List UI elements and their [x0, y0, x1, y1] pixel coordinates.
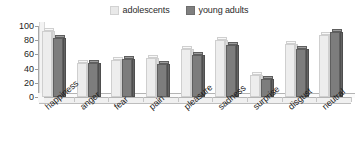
x-axis-labels: happinessangerfearpainpleasuresadnesssur…: [0, 100, 358, 150]
bar-side-face: [132, 59, 135, 97]
bar-pain-young-adults: [157, 64, 167, 97]
bar-top-face: [297, 46, 307, 49]
y-tick-mark: [35, 26, 38, 27]
plot-area: [39, 26, 351, 97]
bar-face: [181, 49, 191, 97]
bar-face: [111, 60, 121, 97]
bar-face: [285, 44, 295, 97]
legend-label-young-adults: young adults: [199, 5, 249, 15]
bar-face: [42, 31, 52, 97]
category-separator: [74, 97, 75, 102]
bar-sadness-adolescents: [215, 40, 225, 97]
y-tick-label: 40: [24, 65, 34, 74]
bar-group: [143, 26, 178, 97]
bar-top-face: [124, 56, 134, 59]
bar-group: [316, 26, 351, 97]
bar-face: [250, 75, 260, 97]
bar-top-face: [286, 41, 296, 44]
y-tick-label: 60: [24, 50, 34, 59]
category-separator: [178, 97, 179, 102]
bar-group: [282, 26, 317, 97]
category-separator: [282, 97, 283, 102]
category-separator: [143, 97, 144, 102]
bar-top-face: [89, 60, 99, 63]
y-tick-mark: [35, 97, 38, 98]
bar-face: [122, 59, 132, 97]
category-separator: [247, 97, 248, 102]
dark-gray-swatch-icon: [186, 6, 195, 15]
bar-group: [108, 26, 143, 97]
bar-top-face: [193, 52, 203, 55]
bar-face: [157, 64, 167, 97]
bar-top-face: [148, 55, 158, 58]
bar-neutral-adolescents: [319, 35, 329, 97]
bar-top-face: [321, 32, 331, 35]
category-separator: [316, 97, 317, 102]
bar-face: [146, 58, 156, 97]
category-separator: [108, 97, 109, 102]
y-axis-labels: 100806040200: [8, 20, 34, 103]
bar-anger-adolescents: [77, 63, 87, 97]
y-tick-mark: [35, 69, 38, 70]
bar-happiness-adolescents: [42, 31, 52, 97]
y-tick-label: 80: [24, 36, 34, 45]
bar-top-face: [159, 61, 169, 64]
bar-top-face: [55, 35, 65, 38]
legend-entry-adolescents: adolescents: [110, 5, 170, 15]
bar-top-face: [182, 46, 192, 49]
bar-fear-adolescents: [111, 60, 121, 97]
bar-top-face: [332, 29, 342, 32]
category-separator: [212, 97, 213, 102]
bar-face: [319, 35, 329, 97]
bar-top-face: [78, 60, 88, 63]
bar-top-face: [44, 28, 54, 31]
bar-top-face: [217, 37, 227, 40]
bar-pleasure-adolescents: [181, 49, 191, 97]
legend-label-adolescents: adolescents: [123, 5, 170, 15]
bar-top-face: [263, 76, 273, 79]
bar-surprise-adolescents: [250, 75, 260, 97]
bar-top-face: [113, 57, 123, 60]
bar-pain-adolescents: [146, 58, 156, 97]
bar-disgust-adolescents: [285, 44, 295, 97]
legend-entry-young-adults: young adults: [186, 5, 249, 15]
category-separator: [351, 97, 352, 102]
bar-side-face: [167, 64, 170, 97]
bar-chart: adolescents young adults 100806040200 ha…: [0, 0, 358, 150]
y-tick-mark: [35, 40, 38, 41]
bar-top-face: [228, 42, 238, 45]
y-tick-label: 100: [19, 22, 34, 31]
y-tick-mark: [35, 54, 38, 55]
bar-face: [215, 40, 225, 97]
bar-top-face: [252, 72, 262, 75]
light-gray-swatch-icon: [110, 6, 119, 15]
bar-fear-young-adults: [122, 59, 132, 97]
chart-legend: adolescents young adults: [0, 5, 358, 15]
y-tick-mark: [35, 83, 38, 84]
bar-face: [77, 63, 87, 97]
y-tick-label: 20: [24, 79, 34, 88]
